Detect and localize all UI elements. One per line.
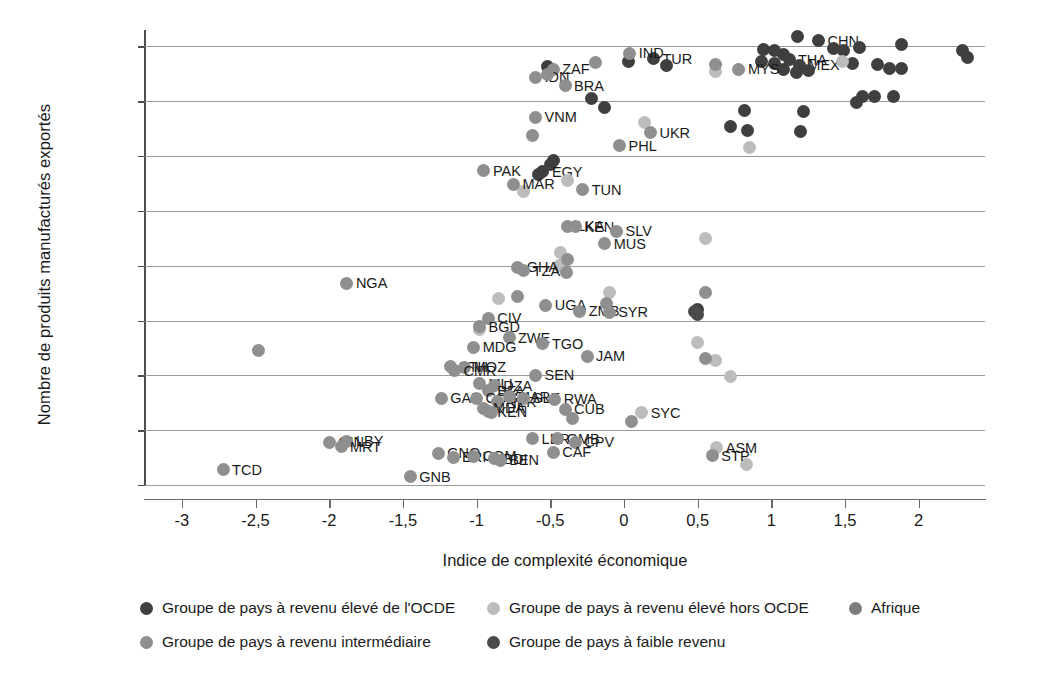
x-tick-mark <box>550 500 551 508</box>
data-point <box>492 292 505 305</box>
y-tick-mark <box>138 156 144 157</box>
legend-swatch-icon <box>487 602 500 615</box>
data-point <box>868 90 881 103</box>
data-point <box>883 62 896 75</box>
data-point <box>850 96 863 109</box>
data-point <box>853 41 866 54</box>
data-point <box>625 415 638 428</box>
data-point <box>576 183 589 196</box>
data-point <box>600 297 613 310</box>
legend-item[interactable]: Afrique <box>849 595 920 621</box>
x-tick-label: -2,5 <box>226 511 286 530</box>
y-tick-mark <box>138 46 144 47</box>
data-point-label: PAK <box>493 164 521 179</box>
data-point <box>871 58 884 71</box>
data-point <box>802 64 815 77</box>
gridline <box>145 156 985 157</box>
x-tick-mark <box>182 500 183 508</box>
data-point <box>699 352 712 365</box>
gridline <box>145 321 985 322</box>
data-point <box>581 350 594 363</box>
y-tick-mark <box>138 430 144 431</box>
legend-label: Groupe de pays à revenu élevé de l'OCDE <box>162 599 455 617</box>
data-point-label: BEN <box>509 453 539 468</box>
legend-label: Groupe de pays à revenu intermédiaire <box>162 633 431 651</box>
data-point <box>404 470 417 483</box>
data-point <box>738 104 751 117</box>
data-point <box>561 253 574 266</box>
legend-item[interactable]: Groupe de pays à revenu élevé de l'OCDE <box>140 595 455 621</box>
data-point <box>335 440 348 453</box>
data-point <box>559 79 572 92</box>
data-point <box>699 286 712 299</box>
x-tick-mark <box>771 500 772 508</box>
legend-swatch-icon <box>487 636 500 649</box>
data-point <box>589 56 602 69</box>
data-point-label: UKR <box>659 126 690 141</box>
data-point <box>598 101 611 114</box>
data-point <box>526 129 539 142</box>
legend-label: Afrique <box>871 599 920 617</box>
data-point-label: TZA <box>533 264 560 279</box>
legend-item[interactable]: Groupe de pays à revenu élevé hors OCDE <box>487 595 809 621</box>
data-point <box>797 105 810 118</box>
data-point-label: MRT <box>350 440 381 455</box>
data-point-label: KEN <box>497 405 527 420</box>
data-point-label: TUN <box>592 183 622 198</box>
x-tick-label: 1,5 <box>815 511 875 530</box>
data-point <box>585 92 598 105</box>
y-tick-mark <box>138 375 144 376</box>
x-tick-mark <box>624 500 625 508</box>
data-point <box>485 406 498 419</box>
data-point-label: TGO <box>552 337 583 352</box>
y-tick-mark <box>138 266 144 267</box>
gridline <box>145 485 985 486</box>
data-point-label: SYR <box>618 305 648 320</box>
legend-swatch-icon <box>140 636 153 649</box>
data-point <box>791 30 804 43</box>
data-point <box>217 463 230 476</box>
data-point-label: MUS <box>614 237 646 252</box>
data-point <box>794 125 807 138</box>
x-tick-mark <box>698 500 699 508</box>
legend-item[interactable]: Groupe de pays à revenu intermédiaire <box>140 629 431 655</box>
data-point <box>699 232 712 245</box>
data-point <box>561 174 574 187</box>
data-point-label: PHL <box>629 139 657 154</box>
x-tick-mark <box>919 500 920 508</box>
legend-swatch-icon <box>140 602 153 615</box>
data-point <box>435 392 448 405</box>
data-point-label: SEN <box>545 368 575 383</box>
y-tick-mark <box>138 485 144 486</box>
data-point <box>507 178 520 191</box>
data-point <box>623 47 636 60</box>
data-point <box>691 308 704 321</box>
data-point-label: GNB <box>419 470 450 485</box>
legend-item[interactable]: Groupe de pays à faible revenu <box>487 629 725 655</box>
data-point <box>613 139 626 152</box>
x-tick-mark <box>403 500 404 508</box>
data-point <box>743 141 756 154</box>
x-tick-label: -3 <box>152 511 212 530</box>
data-point <box>724 120 737 133</box>
x-tick-mark <box>329 500 330 508</box>
data-point-label: BRA <box>574 79 604 94</box>
data-point <box>566 412 579 425</box>
data-point <box>536 337 549 350</box>
y-tick-mark <box>138 101 144 102</box>
x-axis-line <box>144 499 986 500</box>
data-point <box>473 320 486 333</box>
data-point-label: MYS <box>748 62 779 77</box>
data-point-label: MDG <box>483 340 517 355</box>
legend-label: Groupe de pays à revenu élevé hors OCDE <box>509 599 809 617</box>
data-point <box>724 370 737 383</box>
x-tick-label: -1,5 <box>373 511 433 530</box>
x-tick-mark <box>256 500 257 508</box>
data-point-label: MAR <box>522 177 554 192</box>
data-point <box>340 277 353 290</box>
data-point-label: CUB <box>574 402 605 417</box>
x-tick-label: 1 <box>741 511 801 530</box>
data-point <box>706 449 719 462</box>
data-point <box>432 447 445 460</box>
data-point <box>598 237 611 250</box>
